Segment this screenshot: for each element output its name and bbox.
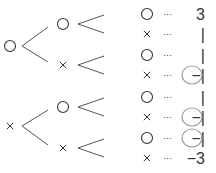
leaf-dots: ··· (163, 112, 172, 122)
leaf-node-cross-icon (144, 72, 150, 78)
leaf-node-cross-icon (144, 31, 150, 37)
leaf-value: | (201, 47, 205, 64)
leaf-value: −3 (187, 150, 205, 167)
leaf-dots: ··· (163, 133, 172, 143)
level2-node-circle-icon (58, 19, 69, 30)
leaf-dots: ··· (163, 9, 172, 19)
tree-diagram: ···3···|···|···−|···|···−|···−|···−3 (0, 0, 216, 173)
leaf-node-circle-icon (142, 133, 153, 144)
leaf-node-cross-icon (144, 114, 150, 120)
leaf-dots: ··· (163, 92, 172, 102)
leaf-dots: ··· (163, 50, 172, 60)
leaf-node-cross-icon (144, 155, 150, 161)
leaf-dots: ··· (163, 70, 172, 80)
level2-node-cross-icon (60, 145, 66, 151)
branch-line (78, 24, 104, 33)
branch-line (78, 15, 104, 24)
branch-line (22, 110, 48, 126)
leaf-node-circle-icon (142, 92, 153, 103)
branch-line (78, 139, 104, 148)
leaf-dots: ··· (163, 29, 172, 39)
leaf-value: 3 (196, 6, 205, 23)
branch-line (22, 126, 48, 145)
level2-node-cross-icon (60, 62, 66, 68)
level2-node-circle-icon (58, 102, 69, 113)
leaf-dots: ··· (163, 153, 172, 163)
branch-line (22, 46, 48, 62)
leaf-value: | (201, 26, 205, 43)
root-node-circle-icon (5, 41, 16, 52)
branch-line (78, 65, 104, 74)
branch-line (78, 56, 104, 65)
branch-line (78, 148, 104, 157)
leaf-node-circle-icon (142, 50, 153, 61)
branch-line (78, 98, 104, 107)
branch-line (78, 107, 104, 116)
leaf-node-circle-icon (142, 9, 153, 20)
root-node-cross-icon (7, 123, 13, 129)
leaf-value: | (201, 89, 205, 106)
branch-line (22, 27, 48, 46)
